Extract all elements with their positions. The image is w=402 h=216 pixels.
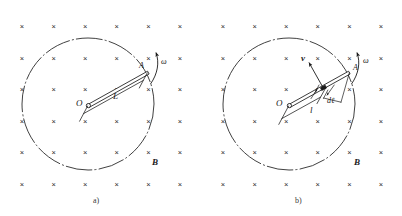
omega-arc-arrow-a bbox=[151, 53, 158, 84]
velocity-label-b: v bbox=[301, 54, 305, 63]
panel-a-graphics bbox=[0, 0, 201, 216]
physics-figure: ×××××××××××××××××××××××××××××××××××× bbox=[0, 0, 402, 216]
panel-caption-b: b) bbox=[295, 196, 302, 205]
field-label-a: B bbox=[152, 158, 158, 167]
panel-b: ×××××××××××××××××××××××××××××××××××× bbox=[201, 0, 402, 216]
panel-b-graphics bbox=[201, 0, 402, 216]
tip-label-b: A bbox=[353, 64, 358, 72]
velocity-vector-b bbox=[309, 63, 323, 89]
length-label-a: L bbox=[113, 92, 118, 101]
center-label-b: O bbox=[276, 99, 283, 108]
tip-label-a: A bbox=[139, 62, 144, 70]
length-label-b: l bbox=[310, 106, 313, 115]
field-label-b: B bbox=[354, 158, 360, 167]
omega-label-a: ω bbox=[161, 58, 167, 66]
panel-caption-a: a) bbox=[93, 196, 99, 205]
center-label-a: O bbox=[76, 99, 83, 108]
omega-label-b: ω bbox=[363, 57, 369, 65]
panel-a: ×××××××××××××××××××××××××××××××××××× bbox=[0, 0, 201, 216]
element-label-b: dℓ bbox=[327, 97, 334, 105]
rotating-rod-a bbox=[88, 71, 149, 107]
length-dimension-b bbox=[279, 88, 326, 124]
